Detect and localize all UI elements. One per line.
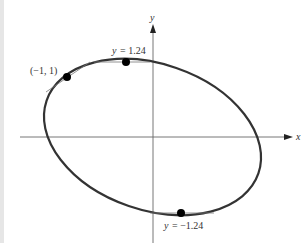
point-top-label: y = 1.24 [111, 45, 146, 56]
point-bottom-label: y = −1.24 [163, 220, 203, 231]
point-top-label-eq: = 1.24 [120, 45, 146, 56]
x-axis-arrow-icon [284, 134, 293, 140]
diagram-canvas: x y (−1, 1) y = 1.24 y = −1.24 [0, 0, 306, 243]
point-top-marker [122, 58, 130, 66]
y-axis-arrow-icon [150, 24, 156, 33]
x-axis [20, 134, 293, 140]
x-axis-label: x [295, 131, 301, 142]
point-bottom-label-eq: = −1.24 [172, 220, 203, 231]
point-bottom-marker [177, 209, 185, 217]
point-neg1-1-label: (−1, 1) [30, 65, 57, 77]
point-top-label-var: y [111, 45, 117, 56]
point-neg1-1-marker [63, 73, 71, 81]
point-bottom-label-var: y [163, 220, 169, 231]
y-axis-label: y [149, 12, 155, 23]
y-axis [150, 24, 156, 243]
